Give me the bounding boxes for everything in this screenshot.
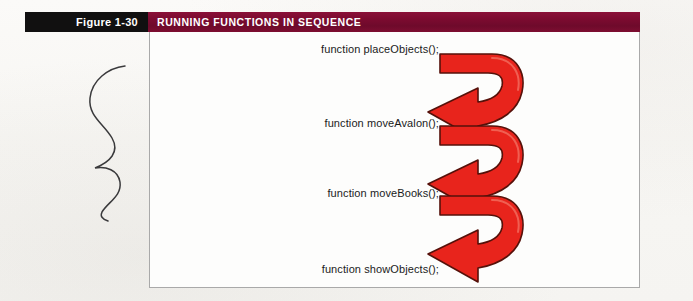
figure-title-banner: RUNNING FUNCTIONS IN SEQUENCE: [148, 12, 640, 32]
figure-title-text: RUNNING FUNCTIONS IN SEQUENCE: [157, 17, 361, 28]
figure-content-frame: function placeObjects(); function moveAv…: [149, 32, 640, 288]
sequence-arrow-icon: [422, 190, 527, 286]
handdrawn-squiggle-icon: [78, 62, 140, 222]
figure-number-text: Figure 1-30: [76, 17, 138, 28]
figure-number-label: Figure 1-30: [25, 12, 148, 32]
